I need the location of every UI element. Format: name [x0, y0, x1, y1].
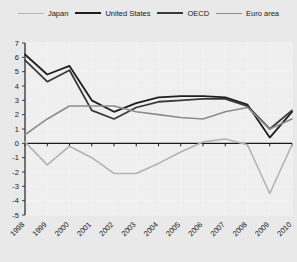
- chart-legend: Japan United States OECD Euro area: [0, 0, 297, 26]
- legend-item-united-states[interactable]: United States: [75, 9, 150, 18]
- legend-item-euro-area[interactable]: Euro area: [216, 9, 279, 18]
- legend-swatch-japan: [18, 13, 44, 14]
- x-tick-label: 2007: [209, 220, 227, 238]
- legend-item-oecd[interactable]: OECD: [157, 9, 209, 18]
- legend-label-united-states: United States: [105, 9, 150, 18]
- chart-screenshot: Japan United States OECD Euro area 76543…: [0, 0, 297, 262]
- y-tick-label: -4: [12, 196, 19, 205]
- chart-plot-area: 76543210-1-2-3-4-5 199819992000200120022…: [0, 26, 297, 262]
- legend-label-japan: Japan: [48, 9, 68, 18]
- y-tick-label: -3: [12, 182, 19, 191]
- line-chart-svg: 76543210-1-2-3-4-5 199819992000200120022…: [0, 26, 297, 262]
- x-tick-label: 2009: [253, 220, 271, 238]
- x-tick-label: 2005: [164, 220, 182, 238]
- legend-swatch-euro-area: [216, 13, 242, 14]
- legend-label-euro-area: Euro area: [246, 9, 279, 18]
- x-tick-label: 2010: [275, 220, 293, 238]
- y-tick-label: 3: [15, 96, 19, 105]
- y-tick-label: 0: [15, 139, 19, 148]
- y-tick-label: 5: [15, 67, 19, 76]
- legend-label-oecd: OECD: [187, 9, 209, 18]
- x-axis-labels: 1998199920002001200220032004200520062007…: [8, 220, 293, 238]
- y-tick-label: -2: [12, 168, 19, 177]
- x-tick-label: 2000: [53, 220, 71, 238]
- y-tick-label: -5: [12, 211, 19, 220]
- y-tick-label: 2: [15, 110, 19, 119]
- x-tick-label: 2006: [186, 220, 204, 238]
- x-tick-label: 1998: [8, 220, 26, 238]
- y-tick-label: 1: [15, 125, 19, 134]
- legend-swatch-united-states: [75, 12, 101, 14]
- x-tick-label: 2001: [75, 220, 93, 238]
- x-tick-label: 1999: [31, 220, 49, 238]
- y-tick-label: 6: [15, 53, 19, 62]
- legend-swatch-oecd: [157, 12, 183, 14]
- y-tick-label: 4: [15, 82, 19, 91]
- y-tick-label: -1: [12, 153, 19, 162]
- x-tick-label: 2008: [231, 220, 249, 238]
- x-tick-label: 2003: [120, 220, 138, 238]
- y-tick-label: 7: [15, 39, 19, 48]
- y-axis-labels: 76543210-1-2-3-4-5: [12, 39, 19, 220]
- x-tick-label: 2002: [97, 220, 115, 238]
- x-tick-label: 2004: [142, 220, 160, 238]
- legend-item-japan[interactable]: Japan: [18, 9, 68, 18]
